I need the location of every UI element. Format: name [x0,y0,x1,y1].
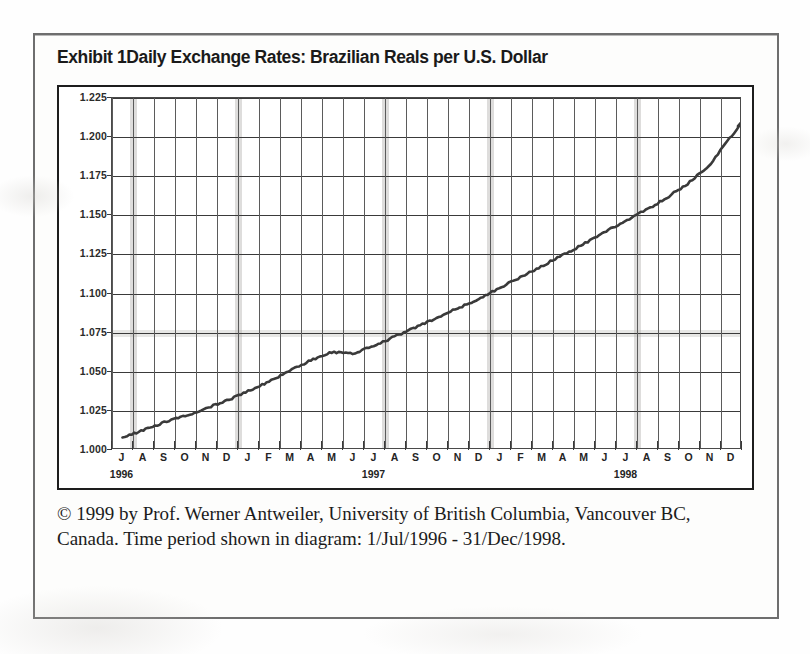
x-axis-tick [405,441,406,450]
x-axis-tick [594,441,595,450]
x-axis-month-label: J [115,451,129,463]
x-axis-tick [573,441,574,450]
exhibit-caption: © 1999 by Prof. Werner Antweiler, Univer… [57,501,747,551]
x-axis-month-label: N [703,451,717,463]
x-axis-tick [342,441,343,450]
x-axis-month-label: O [682,451,696,463]
x-axis-tick [258,441,259,450]
x-axis-tick [111,441,112,450]
x-axis-month-label: A [556,451,570,463]
x-axis-tick [363,441,364,450]
series-line [122,114,740,437]
x-axis-month-label: O [430,451,444,463]
x-axis-month-label: J [241,451,255,463]
exhibit-card: Exhibit 1Daily Exchange Rates: Brazilian… [33,33,779,619]
x-axis-month-label: M [325,451,339,463]
x-axis-year-label: 1998 [606,468,646,480]
x-axis-year-label: 1996 [102,468,142,480]
x-axis-month-label: A [304,451,318,463]
x-axis-month-label: N [451,451,465,463]
x-axis-tick [636,441,637,450]
x-axis-tick [447,441,448,450]
y-axis-ticks [59,97,115,449]
x-axis-tick [132,441,133,450]
plot-area [111,97,741,449]
x-axis-month-label: M [283,451,297,463]
x-axis-month-label: A [640,451,654,463]
x-axis-month-label: F [514,451,528,463]
x-axis-month-label: J [367,451,381,463]
x-axis-month-label: J [346,451,360,463]
x-axis-month-label: S [409,451,423,463]
x-axis-tick [678,441,679,450]
x-axis-tick [300,441,301,450]
x-axis-month-label: A [136,451,150,463]
x-axis-tick [657,441,658,450]
x-axis-tick [531,441,532,450]
x-axis-tick [279,441,280,450]
x-axis-tick [468,441,469,450]
x-axis-month-label: D [472,451,486,463]
x-axis-month-label: S [157,451,171,463]
exhibit-title: Exhibit 1Daily Exchange Rates: Brazilian… [57,47,757,68]
x-axis-tick [552,441,553,450]
x-axis-month-label: S [661,451,675,463]
x-axis-tick [321,441,322,450]
x-axis-tick [153,441,154,450]
x-axis-month-labels: JASONDJFMAMJJASONDJFMAMJJASOND [111,451,741,467]
x-axis-month-label: M [535,451,549,463]
x-axis-month-label: A [388,451,402,463]
x-axis-year-labels: 199619971998 [111,468,741,484]
x-axis-month-label: M [577,451,591,463]
x-axis-month-label: J [493,451,507,463]
x-axis-tick [615,441,616,450]
x-axis-tick [216,441,217,450]
scanned-page: Exhibit 1Daily Exchange Rates: Brazilian… [0,0,810,654]
x-axis-tick [699,441,700,450]
chart-frame: 1.2251.2001.1751.1501.1251.1001.0751.050… [57,85,754,490]
x-axis-tick [741,441,742,450]
x-axis-tick [489,441,490,450]
x-axis-month-label: D [724,451,738,463]
x-axis-tick [510,441,511,450]
x-axis-month-label: J [598,451,612,463]
x-axis-year-label: 1997 [354,468,394,480]
x-axis-month-label: J [619,451,633,463]
x-axis-tick [384,441,385,450]
x-axis-tick [426,441,427,450]
x-axis-month-label: F [262,451,276,463]
x-axis-month-label: D [220,451,234,463]
x-axis-tick [720,441,721,450]
x-axis-tick [195,441,196,450]
x-axis-tick [237,441,238,450]
x-axis-month-label: O [178,451,192,463]
x-axis-month-label: N [199,451,213,463]
x-axis-tick [174,441,175,450]
exchange-rate-line [112,98,740,449]
